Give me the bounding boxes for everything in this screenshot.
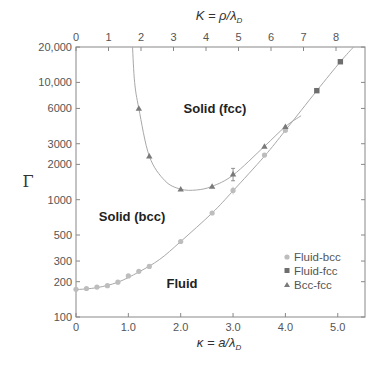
data-point-fluid-bcc [136,269,141,274]
y-tick-label: 200 [54,276,72,288]
bcc-fcc-curve [133,47,302,190]
left-axis-title: Γ [22,172,33,191]
bottom-axis-title: κ = a/λD [197,335,242,352]
data-point-fluid-bcc [147,264,152,269]
data-point-fluid-bcc [210,210,215,215]
x-tick-label: 4.0 [278,321,293,333]
y-tick-label: 500 [54,229,72,241]
x2-tick-label: 5 [235,31,241,43]
data-point-fluid-fcc [314,88,319,93]
x-tick-label: 3.0 [225,321,240,333]
x2-tick-label: 2 [138,31,144,43]
data-point-bcc-fcc [136,105,142,111]
data-point-fluid-bcc [73,287,78,292]
legend-label-bcc-fcc: Bcc-fcc [294,279,332,291]
x2-tick-label: 3 [170,31,176,43]
x2-tick-label: 1 [105,31,111,43]
x-tick-label: 5.0 [330,321,345,333]
y-tick-label: 1000 [48,194,72,206]
data-point-fluid-bcc [84,286,89,291]
x2-tick-label: 8 [333,31,339,43]
y-tick-label: 10,000 [38,76,72,88]
legend-circle-icon [284,254,289,259]
top-axis-title: K = ρ/λD [196,8,243,25]
y-tick-label: 6000 [48,102,72,114]
legend-label-fluid-bcc: Fluid-bcc [294,251,341,263]
data-point-fluid-bcc [94,284,99,289]
data-point-fluid-bcc [105,283,110,288]
data-point-fluid-fcc [338,59,343,64]
x-tick-label: 0 [73,321,79,333]
legend: Fluid-bcc Fluid-fcc Bcc-fcc [284,251,341,291]
x-tick-label: 1.0 [121,321,136,333]
phase-diagram-chart: 01.02.03.04.05.0012345678100200300500100… [0,0,383,371]
y-tick-label: 3000 [48,138,72,150]
data-point-fluid-bcc [262,153,267,158]
y-tick-label: 2000 [48,158,72,170]
legend-triangle-icon [284,282,290,287]
legend-square-icon [285,268,290,273]
data-point-fluid-bcc [178,239,183,244]
legend-label-fluid-fcc: Fluid-fcc [294,265,338,277]
data-point-fluid-bcc [126,273,131,278]
y-tick-label: 100 [54,311,72,323]
x2-tick-label: 4 [203,31,209,43]
region-label-solid-fcc: Solid (fcc) [184,101,247,116]
region-label-fluid: Fluid [166,276,197,291]
region-label-solid-bcc: Solid (bcc) [99,209,165,224]
data-point-bcc-fcc [146,153,152,159]
y-tick-label: 20,000 [38,41,72,53]
x-tick-label: 2.0 [173,321,188,333]
y-tick-label: 300 [54,255,72,267]
x2-tick-label: 6 [268,31,274,43]
x2-tick-label: 0 [73,31,79,43]
data-point-fluid-bcc [115,280,120,285]
x2-tick-label: 7 [300,31,306,43]
